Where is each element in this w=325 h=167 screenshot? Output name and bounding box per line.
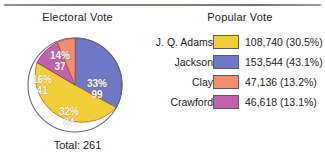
electoral-vote-panel: Electoral Vote 33% 99 32% 84 <box>0 10 155 167</box>
pie-label-clay-percent: 14% <box>50 50 70 61</box>
legend-label-clay: Clay <box>155 72 213 92</box>
pie-label-crawford-count: 41 <box>36 85 47 96</box>
electoral-vote-total: Total: 261 <box>0 139 155 151</box>
legend-swatch-crawford <box>213 95 239 109</box>
legend-value-clay: 47,136 (13.2%) <box>245 72 325 92</box>
legend-label-adams: J. Q. Adams <box>155 32 213 52</box>
popular-vote-title: Popular Vote <box>155 10 325 24</box>
pie-label-jackson: 33% 99 <box>80 78 114 100</box>
legend-swatch-jackson <box>213 55 239 69</box>
pie-label-adams: 32% 84 <box>52 106 86 128</box>
legend-swatch-clay <box>213 75 239 89</box>
legend-label-crawford: Crawford <box>155 92 213 112</box>
legend-swatch-adams <box>213 35 239 49</box>
table-row: J. Q. Adams 108,740 (30.5%) <box>155 32 325 52</box>
legend-value-jackson: 153,544 (43.1%) <box>245 52 325 72</box>
pie-label-jackson-percent: 33% <box>87 78 107 89</box>
legend-label-jackson: Jackson <box>155 52 213 72</box>
pie-label-adams-count: 84 <box>63 117 74 128</box>
top-divider-rule <box>4 4 321 6</box>
pie-label-adams-percent: 32% <box>59 106 79 117</box>
table-row: Jackson 153,544 (43.1%) <box>155 52 325 72</box>
legend-value-crawford: 46,618 (13.1%) <box>245 92 325 112</box>
popular-vote-legend-table: J. Q. Adams 108,740 (30.5%) Jackson 153,… <box>155 32 325 112</box>
pie-label-clay-count: 37 <box>54 61 65 72</box>
table-row: Crawford 46,618 (13.1%) <box>155 92 325 112</box>
pie-label-crawford: 16% 41 <box>27 74 57 96</box>
pie-label-jackson-count: 99 <box>91 89 102 100</box>
popular-vote-panel: Popular Vote J. Q. Adams 108,740 (30.5%)… <box>155 10 325 167</box>
pie-label-crawford-percent: 16% <box>32 74 52 85</box>
electoral-vote-pie-chart: 33% 99 32% 84 16% 41 14% 37 <box>26 36 124 134</box>
pie-label-clay: 14% 37 <box>43 50 77 72</box>
election-results-figure: Electoral Vote 33% 99 32% 84 <box>0 0 325 167</box>
table-row: Clay 47,136 (13.2%) <box>155 72 325 92</box>
electoral-vote-title: Electoral Vote <box>0 10 155 24</box>
legend-value-adams: 108,740 (30.5%) <box>245 32 325 52</box>
